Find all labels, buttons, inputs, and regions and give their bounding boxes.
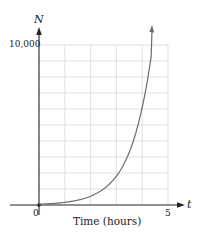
y-axis-arrow-icon: [36, 27, 42, 35]
x-tick-5: 5: [165, 209, 171, 218]
x-axis-label: t: [187, 199, 191, 210]
axes: [10, 27, 185, 215]
y-axis-label: N: [34, 14, 44, 25]
x-axis-arrow-icon: [177, 202, 185, 208]
y-tick-10000: 10,000: [9, 40, 41, 49]
curve-arrow-icon: [149, 25, 154, 33]
grid-lines: [39, 45, 168, 205]
growth-curve: [39, 25, 154, 204]
x-tick-0: 0: [33, 209, 39, 218]
curve-line: [39, 30, 152, 204]
exponential-growth-chart: [0, 0, 198, 240]
x-axis-title: Time (hours): [73, 216, 141, 227]
